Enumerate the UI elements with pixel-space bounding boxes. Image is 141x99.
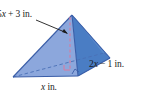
label-width: x in. bbox=[41, 82, 57, 92]
label-height: 5x + 3 in. bbox=[0, 9, 32, 19]
geometry-figure: 5x + 3 in. 2x − 1 in. x in. bbox=[0, 0, 141, 99]
label-depth: 2x − 1 in. bbox=[89, 59, 124, 69]
